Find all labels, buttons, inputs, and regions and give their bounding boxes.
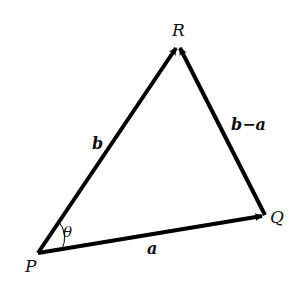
vector-b-minus-a-label: b−a [231, 117, 266, 133]
angle-theta-label: θ [63, 225, 72, 240]
point-q-label: Q [270, 209, 284, 226]
point-r-label: R [172, 22, 185, 39]
vector-b-label: b [92, 136, 103, 152]
point-p-label: P [25, 258, 36, 275]
vector-triangle-diagram: R P Q b b−a a θ [0, 0, 297, 296]
vector-a-label: a [147, 241, 157, 257]
